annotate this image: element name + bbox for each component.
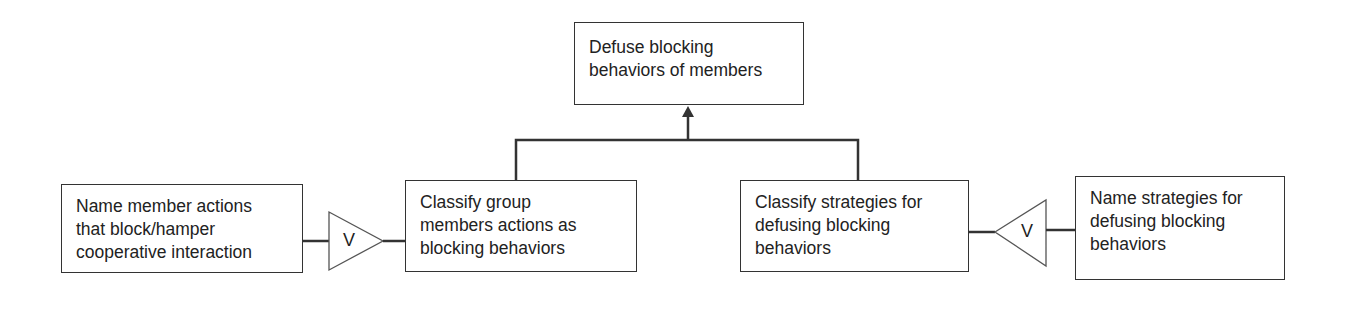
left-operator-triangle-icon: [329, 212, 383, 270]
node-text-line: that block/hamper: [76, 218, 290, 241]
node-name-strategies: Name strategies for defusing blocking be…: [1075, 176, 1285, 280]
left-operator-label: V: [343, 230, 355, 251]
node-name-member-actions: Name member actions that block/hamper co…: [61, 184, 303, 273]
node-text-line: defusing blocking: [755, 214, 956, 237]
node-text-line: Name strategies for: [1090, 187, 1272, 210]
node-text-line: behaviors of members: [589, 59, 791, 82]
right-operator-label: V: [1021, 221, 1033, 242]
node-text-line: cooperative interaction: [76, 241, 290, 264]
join-connector: [516, 140, 858, 181]
node-text-line: Classify group: [420, 191, 624, 214]
node-text-line: defusing blocking: [1090, 210, 1272, 233]
node-text-line: behaviors: [1090, 233, 1272, 256]
node-text-line: Name member actions: [76, 195, 290, 218]
node-text-line: behaviors: [755, 237, 956, 260]
arrow-head-icon: [682, 106, 694, 117]
node-text-line: Defuse blocking: [589, 36, 791, 59]
node-classify-strategies: Classify strategies for defusing blockin…: [740, 180, 969, 272]
node-text-line: blocking behaviors: [420, 237, 624, 260]
node-classify-group-member-actions: Classify group members actions as blocki…: [405, 180, 637, 272]
node-defuse-blocking-behaviors: Defuse blocking behaviors of members: [574, 22, 804, 105]
node-text-line: members actions as: [420, 214, 624, 237]
node-text-line: Classify strategies for: [755, 191, 956, 214]
